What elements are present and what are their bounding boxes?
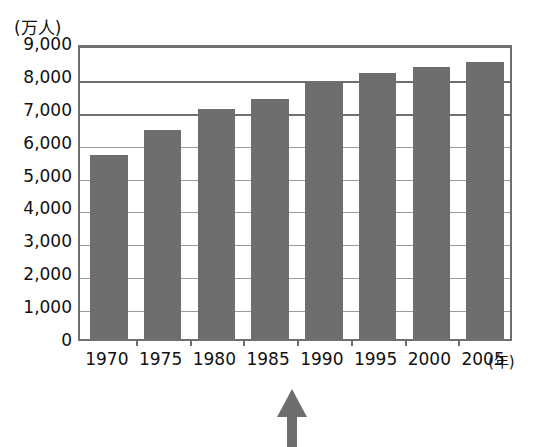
- x-axis-tick-labels: 19701975198019851990199520002005: [78, 349, 512, 375]
- y-axis-tick-labels: 9,0008,0007,0006,0005,0004,0003,0002,000…: [0, 45, 72, 341]
- x-axis-tick-label: 1995: [349, 349, 403, 369]
- x-axis-tick: [190, 339, 192, 346]
- x-axis-tick-label: 1985: [241, 349, 295, 369]
- bars-layer: [82, 48, 508, 339]
- bar: [359, 73, 397, 339]
- x-axis-tick-label: 1975: [134, 349, 188, 369]
- y-axis-tick-label: 7,000: [2, 102, 72, 119]
- x-axis-tick: [243, 339, 245, 346]
- bar: [144, 130, 182, 339]
- bar: [305, 82, 343, 339]
- x-axis-tick: [297, 339, 299, 346]
- y-axis-tick-label: 3,000: [2, 233, 72, 250]
- x-axis-tick: [458, 339, 460, 346]
- y-axis-tick-label: 4,000: [2, 200, 72, 217]
- x-axis-tick-label: 2000: [403, 349, 457, 369]
- bar: [413, 67, 451, 339]
- y-axis-tick-label: 5,000: [2, 168, 72, 185]
- x-axis-unit-label: (年): [488, 352, 515, 372]
- y-axis-tick-label: 1,000: [2, 299, 72, 316]
- bar: [466, 62, 504, 339]
- y-axis-tick-label: 8,000: [2, 69, 72, 86]
- population-bar-chart: (万人) 9,0008,0007,0006,0005,0004,0003,000…: [0, 0, 533, 447]
- y-axis-tick-label: 2,000: [2, 266, 72, 283]
- up-arrow-annotation-icon: [272, 387, 312, 447]
- x-axis-tick-label: 1970: [80, 349, 134, 369]
- bar: [251, 99, 289, 339]
- bar: [198, 109, 236, 339]
- plot-area: [78, 45, 512, 341]
- x-axis-tick: [351, 339, 353, 346]
- x-axis-tick: [405, 339, 407, 346]
- bar: [90, 155, 128, 339]
- y-axis-tick-label: 9,000: [2, 36, 72, 53]
- x-axis-tick-label: 1990: [295, 349, 349, 369]
- y-axis-tick-label: 0: [2, 332, 72, 349]
- x-axis-tick: [136, 339, 138, 346]
- x-axis-tick-label: 1980: [188, 349, 242, 369]
- y-axis-tick-label: 6,000: [2, 135, 72, 152]
